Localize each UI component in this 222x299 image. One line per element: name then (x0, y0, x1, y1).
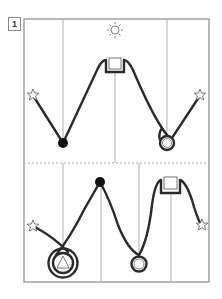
black-dot-bottom (95, 177, 105, 187)
star-icon-right-top (194, 89, 206, 100)
bottom-path (35, 180, 201, 255)
triangle-spiral (49, 249, 78, 278)
top-guides (63, 19, 167, 163)
loop-circle-bottom (132, 257, 147, 272)
square-peak-bottom (161, 177, 180, 193)
sun-icon (107, 22, 123, 38)
square-peak-top (106, 58, 124, 72)
movement-diagram (0, 0, 222, 299)
black-dot-top (58, 138, 68, 148)
star-icon-left-top (27, 89, 39, 100)
